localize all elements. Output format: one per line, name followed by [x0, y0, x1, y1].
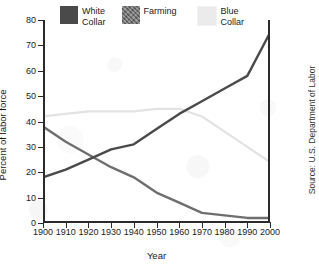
y-axis-tick-label: 50	[26, 92, 36, 101]
source-note-container: Source: U.S. Department of Labor	[305, 30, 319, 230]
x-axis-title: Year	[43, 250, 270, 261]
x-axis-tick-label: 1920	[78, 228, 98, 237]
right-spine-line	[268, 20, 270, 223]
series-lines	[43, 20, 270, 223]
series-line-blue-collar	[43, 109, 270, 162]
x-axis-tick-label: 1950	[146, 228, 166, 237]
y-axis-title: Percent of labor force	[0, 89, 8, 180]
labor-force-line-chart: White Collar Farming Blue Collar Percent…	[0, 0, 319, 269]
y-axis-tick-label: 60	[26, 67, 36, 76]
x-axis-tick-label: 1900	[33, 228, 53, 237]
series-line-white-collar	[43, 33, 270, 178]
y-axis-tick-mark	[38, 198, 44, 199]
y-axis-tick-label: 10	[26, 194, 36, 203]
y-axis-tick-mark	[38, 20, 44, 21]
x-axis-tick-label: 2000	[260, 228, 280, 237]
x-axis-tick-label: 1990	[237, 228, 257, 237]
y-axis-tick-mark	[38, 172, 44, 173]
x-axis-tick-label: 1940	[124, 228, 144, 237]
legend-label-farming: Farming	[144, 6, 177, 17]
y-axis-tick-mark	[38, 122, 44, 123]
x-axis-tick-label: 1970	[192, 228, 212, 237]
y-axis-tick-label: 20	[26, 168, 36, 177]
y-axis-tick-label: 30	[26, 143, 36, 152]
x-axis-tick-label: 1980	[215, 228, 235, 237]
plot-area: 80706050403020100 1900191019201930194019…	[43, 20, 270, 223]
y-axis-tick-label: 40	[26, 118, 36, 127]
x-axis-tick-label: 1910	[56, 228, 76, 237]
y-axis-tick-label: 80	[26, 16, 36, 25]
y-axis-tick-mark	[38, 147, 44, 148]
y-axis-tick-label: 70	[26, 41, 36, 50]
x-axis-tick-label: 1930	[101, 228, 121, 237]
source-note: Source: U.S. Department of Labor	[307, 66, 317, 195]
y-axis-tick-mark	[38, 45, 44, 46]
y-axis-tick-mark	[38, 71, 44, 72]
y-axis-tick-mark	[38, 96, 44, 97]
x-axis-tick-label: 1960	[169, 228, 189, 237]
